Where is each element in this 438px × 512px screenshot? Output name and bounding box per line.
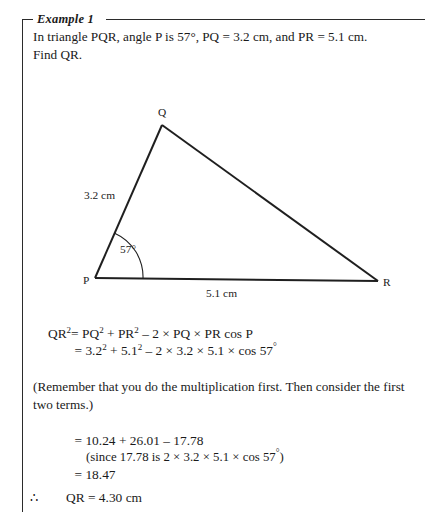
remember-note-line-1: (Remember that you do the multiplication… [33,378,425,396]
side-length-label-pr: 5.1 cm [206,287,237,299]
equation-lhs: QR [48,326,67,341]
triangle-side-qr [162,125,378,281]
vertex-label-r: R [383,276,391,288]
calculation-line-1: = 10.24 + 26.01 – 17.78 [75,432,204,450]
equation-rhs-part-1: = PQ [71,326,99,341]
degree-symbol: ° [273,342,277,352]
triangle-side-pq [95,125,162,278]
angle-arc-p [115,233,143,278]
angle-measure-label-p: 57° [120,243,136,255]
triangle-side-pr [95,278,378,281]
conclusion-line: ∴QR = 4.30 cm [30,489,142,507]
equation-line-2: = 3.22 + 5.12 – 2 × 3.2 × 5.1 × cos 57° [75,342,277,360]
vertex-label-p: P [83,274,89,286]
therefore-symbol: ∴ [30,489,66,507]
equation-rhs-part-2: + PR [104,326,135,341]
triangle-diagram [0,0,438,512]
remember-note: (Remember that you do the multiplication… [33,378,425,413]
substitution-part-2: + 5.1 [107,343,138,358]
side-length-label-pq: 3.2 cm [84,189,115,201]
calculation-line-3: = 18.47 [75,466,116,484]
calculation-line-2: (since 17.78 is 2 × 3.2 × 5.1 × cos 57°) [86,449,284,467]
equation-line-1: QR2= PQ2 + PR2 – 2 × PQ × PR cos P [48,325,253,343]
equation-rhs-part-3: – 2 × PQ × PR cos P [139,326,253,341]
final-answer: QR = 4.30 cm [66,490,142,505]
substitution-part-3: – 2 × 3.2 × 5.1 × cos 57 [142,343,273,358]
vertex-label-q: Q [158,106,166,118]
calculation-aside-close: ) [280,450,284,464]
calculation-aside-text: (since 17.78 is 2 × 3.2 × 5.1 × cos 57 [86,450,276,464]
substitution-part-1: = 3.2 [75,343,103,358]
remember-note-line-2: two terms.) [33,396,425,414]
